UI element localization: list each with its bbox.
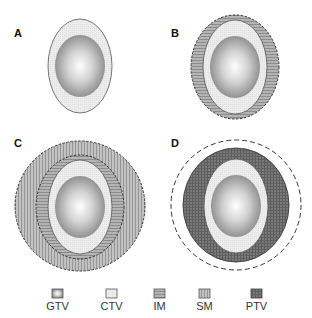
panel-b: B (171, 15, 279, 119)
legend: GTV CTV IM SM PTV (46, 289, 268, 312)
target-volume-diagram: A B C D GTV CTV IM (0, 0, 312, 318)
panel-label-b: B (171, 27, 179, 39)
legend-label-im: IM (153, 300, 165, 312)
legend-item-sm: SM (196, 289, 213, 312)
panel-label-a: A (14, 27, 22, 39)
panel-d: D (171, 137, 301, 270)
ctv-swatch-icon (106, 289, 117, 298)
gtv-swatch-icon (52, 289, 63, 298)
panel-a: A (14, 19, 112, 113)
legend-label-ctv: CTV (101, 300, 124, 312)
ptv-swatch-icon (251, 289, 262, 298)
im-swatch-icon (154, 289, 165, 298)
legend-item-im: IM (153, 289, 165, 312)
sm-swatch-icon (199, 289, 210, 298)
gtv-region (55, 176, 105, 238)
gtv-region (55, 35, 105, 97)
gtv-region (211, 175, 261, 237)
panel-c: C (14, 137, 145, 271)
legend-item-ctv: CTV (101, 289, 124, 312)
panel-label-d: D (171, 137, 179, 149)
legend-item-ptv: PTV (246, 289, 268, 312)
legend-label-ptv: PTV (246, 300, 268, 312)
legend-label-sm: SM (196, 300, 213, 312)
legend-item-gtv: GTV (46, 289, 69, 312)
gtv-region (210, 36, 260, 98)
legend-label-gtv: GTV (46, 300, 69, 312)
panel-label-c: C (14, 137, 22, 149)
